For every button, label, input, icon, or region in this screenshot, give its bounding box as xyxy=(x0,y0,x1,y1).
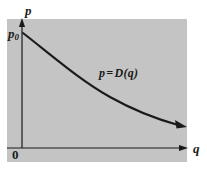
p-intercept-subscript: 0 xyxy=(15,32,20,42)
y-axis-label: p xyxy=(25,4,32,17)
p-intercept-base: p xyxy=(8,26,15,41)
p-intercept-label: p0 xyxy=(8,27,19,40)
curve-equation-label: p=D(q) xyxy=(99,67,138,79)
plot-canvas xyxy=(0,0,207,169)
x-axis-label: q xyxy=(193,142,200,155)
origin-label: 0 xyxy=(12,148,19,161)
demand-curve-figure: p q p0 0 p=D(q) xyxy=(0,0,207,169)
curve-equation-rhs: D(q) xyxy=(114,66,138,80)
